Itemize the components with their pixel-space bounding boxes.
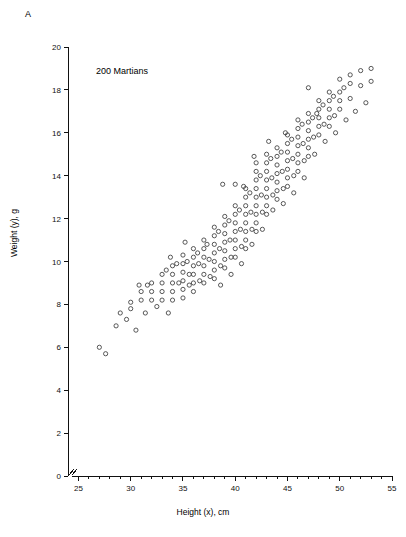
- y-tick-label-0: 0: [57, 472, 62, 481]
- data-point: [301, 141, 305, 145]
- data-point: [285, 141, 289, 145]
- data-point: [269, 156, 273, 160]
- data-point: [212, 234, 216, 238]
- axis-break-mark: [69, 469, 77, 475]
- data-point: [233, 204, 237, 208]
- data-point: [160, 281, 164, 285]
- data-point: [296, 118, 300, 122]
- x-tick-label-40: 40: [231, 484, 240, 493]
- data-point: [292, 174, 296, 178]
- data-point: [275, 180, 279, 184]
- data-point: [258, 174, 262, 178]
- data-point: [306, 137, 310, 141]
- data-point: [166, 311, 170, 315]
- data-point: [348, 96, 352, 100]
- data-point: [244, 229, 248, 233]
- data-point: [285, 176, 289, 180]
- data-point: [228, 238, 232, 242]
- data-point: [233, 247, 237, 251]
- data-point: [139, 289, 143, 293]
- data-point: [331, 94, 335, 98]
- data-point: [264, 195, 268, 199]
- data-point: [271, 193, 275, 197]
- data-point: [250, 242, 254, 246]
- data-point: [327, 107, 331, 111]
- y-tick-label-14: 14: [52, 172, 61, 181]
- data-point: [296, 169, 300, 173]
- data-point: [313, 152, 317, 156]
- data-point: [264, 152, 268, 156]
- data-point: [285, 159, 289, 163]
- data-point: [359, 69, 363, 73]
- data-point: [244, 221, 248, 225]
- data-point: [359, 84, 363, 88]
- data-point: [338, 107, 342, 111]
- figure-panel: A 200 Martians Height (x), cm Weight (y)…: [0, 0, 406, 537]
- data-point: [181, 253, 185, 257]
- data-point: [275, 197, 279, 201]
- data-point: [275, 163, 279, 167]
- x-tick-label-45: 45: [283, 484, 292, 493]
- data-point: [223, 257, 227, 261]
- data-point: [275, 189, 279, 193]
- data-point: [280, 169, 284, 173]
- data-point: [252, 154, 256, 158]
- data-point: [312, 135, 316, 139]
- data-point: [259, 193, 263, 197]
- y-tick-label-16: 16: [52, 129, 61, 138]
- data-point: [196, 251, 200, 255]
- data-point: [302, 159, 306, 163]
- data-point: [291, 156, 295, 160]
- data-point: [202, 255, 206, 259]
- data-point: [212, 259, 216, 263]
- data-point: [254, 169, 258, 173]
- data-point: [279, 150, 283, 154]
- data-point: [369, 66, 373, 70]
- data-point: [202, 272, 206, 276]
- data-point: [254, 186, 258, 190]
- data-points-group: [97, 66, 373, 355]
- data-point: [369, 79, 373, 83]
- data-point: [207, 257, 211, 261]
- data-point: [344, 118, 348, 122]
- data-point: [191, 289, 195, 293]
- data-point: [181, 270, 185, 274]
- data-point: [264, 186, 268, 190]
- data-point: [170, 289, 174, 293]
- data-point: [306, 129, 310, 133]
- data-point: [170, 272, 174, 276]
- data-point: [254, 212, 258, 216]
- y-tick-label-18: 18: [52, 86, 61, 95]
- data-point: [317, 107, 321, 111]
- data-point: [170, 298, 174, 302]
- axes-group: [68, 47, 392, 476]
- data-point: [244, 247, 248, 251]
- data-point: [250, 227, 254, 231]
- data-point: [233, 212, 237, 216]
- data-point: [191, 264, 195, 268]
- data-point: [317, 133, 321, 137]
- data-point: [348, 73, 352, 77]
- data-point: [260, 210, 264, 214]
- data-point: [233, 182, 237, 186]
- y-tick-label-6: 6: [57, 343, 62, 352]
- data-point: [332, 114, 336, 118]
- data-point: [177, 281, 181, 285]
- data-point: [264, 178, 268, 182]
- data-point: [264, 161, 268, 165]
- data-point: [333, 131, 337, 135]
- data-point: [239, 262, 243, 266]
- data-point: [254, 195, 258, 199]
- x-tick-label-50: 50: [335, 484, 344, 493]
- data-point: [208, 274, 212, 278]
- data-point: [306, 146, 310, 150]
- data-point: [248, 191, 252, 195]
- data-point: [238, 227, 242, 231]
- data-point: [267, 139, 271, 143]
- data-point: [310, 116, 314, 120]
- data-point: [160, 272, 164, 276]
- data-point: [285, 184, 289, 188]
- data-point: [239, 244, 243, 248]
- data-point: [191, 247, 195, 251]
- data-point: [202, 247, 206, 251]
